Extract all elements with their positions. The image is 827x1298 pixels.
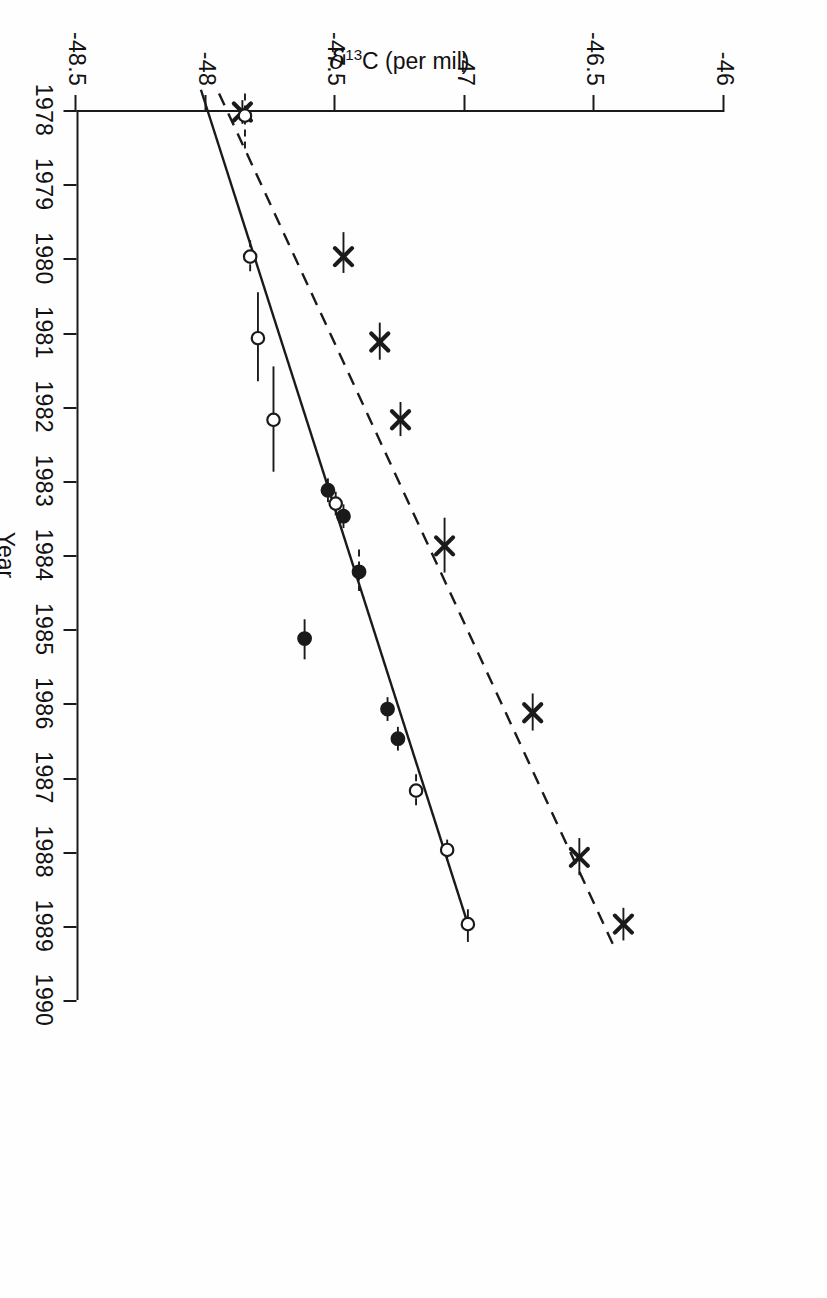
plot-area	[76, 110, 724, 1000]
filled-circle-marker	[337, 510, 349, 522]
y-axis-tick	[74, 95, 76, 110]
y-axis-tick	[333, 95, 335, 110]
isotope-superscript: 13	[345, 46, 362, 63]
x-axis-tick-label: 1980	[29, 232, 56, 284]
y-axis-title-rest: C (per mil)	[362, 48, 469, 74]
x-axis-tick-label: 1987	[29, 751, 56, 803]
x-axis-tick-label: 1984	[29, 529, 56, 581]
x-axis-tick	[63, 258, 76, 260]
y-axis-tick	[722, 95, 724, 110]
x-axis-tick-label: 1989	[29, 900, 56, 952]
x-axis-tick	[63, 110, 76, 112]
open-circle-marker	[267, 414, 279, 426]
x-axis-tick-label: 1985	[29, 603, 56, 655]
y-axis-tick	[463, 95, 465, 110]
x-axis-tick-label: 1983	[29, 455, 56, 507]
x-axis-tick	[63, 333, 76, 335]
x-axis-tick	[63, 778, 76, 780]
figure-page: 1978197919801981198219831984198519861987…	[0, 0, 827, 1298]
rotated-figure-wrapper: 1978197919801981198219831984198519861987…	[0, 0, 827, 1298]
delta-symbol: δ	[329, 45, 345, 75]
fit-line-x-marker-series	[219, 93, 616, 950]
x-axis-tick-label: 1981	[29, 306, 56, 358]
x-axis-tick	[63, 407, 76, 409]
y-axis-tick-label: -48	[192, 0, 219, 86]
open-circle-marker	[243, 250, 255, 262]
x-axis-tick	[63, 481, 76, 483]
series-circle-marker-series	[238, 93, 473, 941]
y-axis-title: δ13C (per mil)	[279, 45, 519, 75]
y-axis-tick-label: -46.5	[581, 0, 608, 86]
x-axis-tick-label: 1978	[29, 84, 56, 136]
x-axis-tick-label: 1990	[29, 974, 56, 1026]
open-circle-marker	[251, 332, 263, 344]
x-axis-tick	[63, 184, 76, 186]
open-circle-marker	[440, 844, 452, 856]
y-axis-tick	[592, 95, 594, 110]
open-circle-marker	[409, 784, 421, 796]
x-axis-tick-label: 1988	[29, 825, 56, 877]
filled-circle-marker	[352, 566, 364, 578]
filled-circle-marker	[391, 733, 403, 745]
filled-circle-marker	[321, 484, 333, 496]
x-axis-tick	[63, 555, 76, 557]
filled-circle-marker	[381, 703, 393, 715]
open-circle-marker	[238, 110, 250, 122]
x-axis-title: Year	[0, 532, 18, 578]
x-axis-tick-label: 1979	[29, 158, 56, 210]
x-axis-tick	[63, 703, 76, 705]
x-axis-tick-label: 1982	[29, 380, 56, 432]
open-circle-marker	[461, 918, 473, 930]
y-axis-tick	[204, 95, 206, 110]
figure-canvas: 1978197919801981198219831984198519861987…	[0, 0, 827, 1298]
x-axis-tick	[63, 629, 76, 631]
filled-circle-marker	[298, 632, 310, 644]
x-axis-tick	[63, 852, 76, 854]
x-axis-tick-label: 1986	[29, 677, 56, 729]
data-layer	[76, 112, 724, 1002]
y-axis-tick-label: -48.5	[63, 0, 90, 86]
open-circle-marker	[329, 497, 341, 509]
y-axis-tick-label: -46	[711, 0, 738, 86]
x-axis-tick	[63, 1000, 76, 1002]
x-axis-tick	[63, 926, 76, 928]
